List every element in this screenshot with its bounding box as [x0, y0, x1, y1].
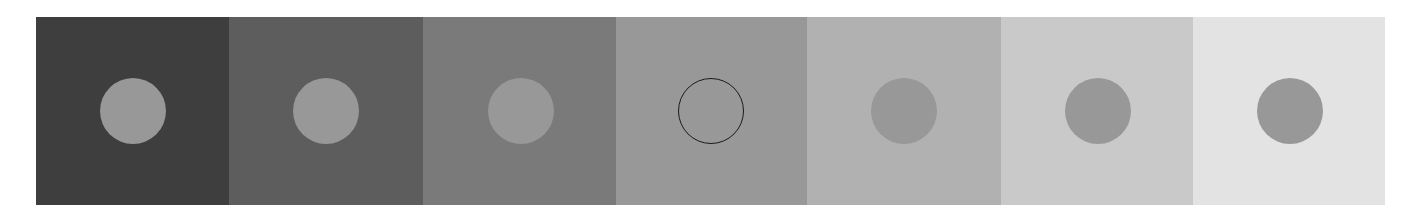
background-panel-1: [36, 17, 229, 205]
background-panel-5: [807, 17, 1001, 205]
background-panel-3: [423, 17, 616, 205]
background-panel-2: [229, 17, 423, 205]
gray-disc: [1065, 78, 1131, 144]
gray-disc: [871, 78, 937, 144]
gray-disc: [293, 78, 359, 144]
contrast-strip: [36, 17, 1385, 205]
background-panel-7: [1193, 17, 1385, 205]
gray-disc: [488, 78, 554, 144]
gray-disc: [1257, 78, 1323, 144]
background-panel-6: [1001, 17, 1193, 205]
reference-disc-outlined: [678, 78, 744, 144]
gray-disc: [100, 78, 166, 144]
background-panel-4: [616, 17, 807, 205]
